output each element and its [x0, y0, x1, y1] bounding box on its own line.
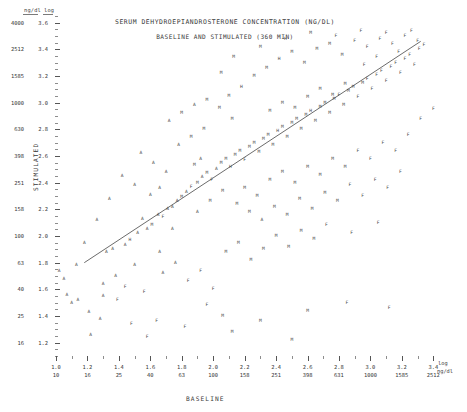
x-axis-title: BASELINE: [186, 395, 225, 402]
scatter-point: H: [276, 128, 279, 133]
x-tick-major: [245, 356, 246, 361]
scatter-point: F: [338, 92, 341, 97]
scatter-point: M: [319, 172, 322, 177]
scatter-point: M: [231, 330, 234, 335]
scatter-point: M: [218, 106, 221, 111]
scatter-point: F: [413, 63, 416, 68]
scatter-point: M: [287, 244, 290, 249]
x-tick-minor: [135, 356, 136, 359]
scatter-point: F: [124, 284, 127, 289]
scatter-point: F: [143, 290, 146, 295]
y-axis-unit-header-log: log: [44, 7, 54, 13]
scatter-point: M: [352, 84, 355, 89]
x-tick-label-raw: 16: [74, 372, 100, 378]
scatter-point: F: [404, 56, 407, 61]
y-tick-label-raw: 16: [0, 340, 24, 346]
y-tick-label-raw: 25: [0, 313, 24, 319]
scatter-point: M: [232, 55, 235, 60]
scatter-point: M: [220, 160, 223, 165]
scatter-point: M: [290, 50, 293, 55]
scatter-point: F: [385, 31, 388, 36]
scatter-point: M: [235, 202, 238, 207]
y-tick-label-log: 1.4: [26, 313, 48, 319]
scatter-point: M: [268, 108, 271, 113]
scatter-point: M: [311, 207, 314, 212]
x-tick-label-log: 2.6: [295, 364, 321, 370]
y-tick-label-log: 1.6: [26, 286, 48, 292]
scatter-point: M: [275, 234, 278, 239]
y-tick-label-log: 3.0: [26, 100, 48, 106]
scatter-point: F: [374, 178, 377, 183]
scatter-point: H: [309, 108, 312, 113]
scatter-point: M: [250, 258, 253, 263]
scatter-point: A: [174, 260, 177, 265]
x-tick-minor: [292, 356, 293, 359]
scatter-point: M: [257, 150, 260, 155]
y-tick-label-raw: 2512: [0, 46, 24, 52]
x-tick-label-raw: 1000: [357, 372, 383, 378]
scatter-point: M: [180, 111, 183, 116]
header-underline-raw: [23, 14, 38, 15]
scatter-point: A: [185, 190, 188, 195]
scatter-point: F: [416, 39, 419, 44]
figure-canvas: ng/dl log log ng/dl SERUM DEHYDROEPIANDR…: [0, 0, 467, 412]
scatter-point: F: [382, 140, 385, 145]
scatter-point: M: [202, 127, 205, 132]
y-tick-label-raw: 398: [0, 153, 24, 159]
scatter-point: F: [419, 116, 422, 121]
scatter-point: A: [58, 268, 61, 273]
scatter-point: M: [294, 180, 297, 185]
scatter-point: M: [180, 195, 183, 200]
scatter-point: A: [157, 212, 160, 217]
scatter-point: A: [199, 156, 202, 161]
scatter-point: M: [323, 100, 326, 105]
scatter-point: M: [306, 308, 309, 313]
scatter-point: A: [89, 332, 92, 337]
y-tick-label-raw: 630: [0, 126, 24, 132]
x-tick-label-raw: 1585: [389, 372, 415, 378]
x-tick-label-log: 1.6: [137, 364, 163, 370]
scatter-point: F: [212, 287, 215, 292]
scatter-point: M: [294, 106, 297, 111]
x-tick-minor: [197, 356, 198, 359]
y-tick-label-raw: 100: [0, 233, 24, 239]
scatter-point: M: [221, 188, 224, 193]
y-tick-label-raw: 63: [0, 260, 24, 266]
scatter-point: A: [196, 210, 199, 215]
scatter-point: M: [347, 88, 350, 93]
scatter-point: H: [240, 84, 243, 89]
scatter-point: F: [394, 60, 397, 65]
scatter-point: A: [215, 167, 218, 172]
scatter-point: F: [187, 279, 190, 284]
scatter-point: F: [375, 55, 378, 60]
scatter-point: M: [309, 31, 312, 36]
x-tick-major: [276, 356, 277, 361]
scatter-point: F: [345, 300, 348, 305]
x-tick-label-raw: 158: [232, 372, 258, 378]
scatter-point: M: [262, 136, 265, 141]
scatter-point: A: [99, 316, 102, 321]
scatter-point: M: [319, 87, 322, 92]
x-tick-label-raw: 2512: [420, 372, 446, 378]
scatter-point: A: [102, 294, 105, 299]
scatter-point: F: [130, 322, 133, 327]
x-tick-minor: [260, 356, 261, 359]
scatter-point: A: [152, 160, 155, 165]
scatter-point: M: [224, 250, 227, 255]
scatter-point: F: [325, 223, 328, 228]
scatter-point: F: [199, 268, 202, 273]
scatter-point: F: [243, 158, 246, 163]
scatter-point: M: [273, 204, 276, 209]
scatter-point: M: [272, 143, 275, 148]
scatter-point: A: [88, 310, 91, 315]
scatter-point: F: [378, 36, 381, 41]
scatter-point: A: [158, 250, 161, 255]
scatter-point: F: [184, 324, 187, 329]
x-tick-minor: [355, 356, 356, 359]
x-tick-label-log: 2.8: [326, 364, 352, 370]
x-tick-label-log: 1.4: [106, 364, 132, 370]
scatter-point: F: [356, 95, 359, 100]
scatter-point: M: [234, 152, 237, 157]
y-axis-title: STIMULATED: [32, 143, 39, 191]
scatter-point: M: [239, 148, 242, 153]
